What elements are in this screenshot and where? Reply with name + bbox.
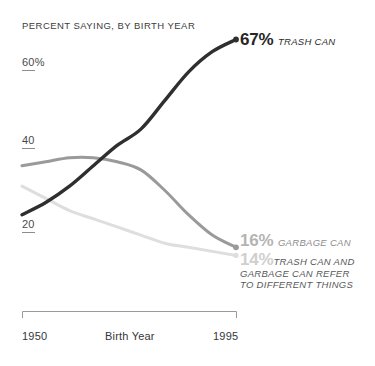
series-endpoint-trash-can: [233, 37, 239, 43]
series-endpoint-trash-can-and-garbage-can-refer-to-different-things: [233, 253, 238, 258]
x-axis-bracket: [23, 312, 237, 319]
series-line-trash-can: [22, 39, 236, 214]
series-label-garbage-can: 16% GARBAGE CAN: [240, 231, 351, 250]
plot-area: [0, 0, 375, 366]
both-terms-percent: 14%: [240, 250, 273, 269]
trash-can-percent: 67%: [240, 30, 273, 49]
x-axis-title: Birth Year: [105, 330, 155, 342]
series-endpoint-garbage-can: [233, 244, 239, 250]
garbage-can-caption: GARBAGE CAN: [278, 237, 351, 248]
both-terms-caption-line3: TO DIFFERENT THINGS: [240, 280, 355, 291]
chart-container: PERCENT SAYING, BY BIRTH YEAR 60% 40 20 …: [0, 0, 375, 366]
both-terms-caption-line1: TRASH CAN AND: [273, 256, 354, 267]
series-label-trash-can: 67% TRASH CAN: [240, 30, 336, 49]
x-axis-start-label: 1950: [22, 330, 47, 342]
x-axis-end-label: 1995: [213, 330, 238, 342]
trash-can-caption: TRASH CAN: [278, 36, 336, 47]
series-label-both-terms: 14%TRASH CAN AND GARBAGE CAN REFER TO DI…: [240, 250, 355, 290]
garbage-can-percent: 16%: [240, 231, 273, 250]
series-group: [22, 37, 239, 258]
